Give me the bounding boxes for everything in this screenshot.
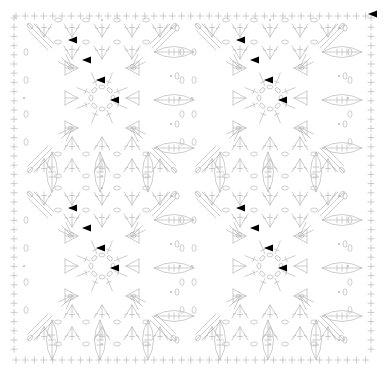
slip-stitch (269, 175, 271, 177)
slip-stitch (101, 19, 103, 21)
join-slip-stitch (170, 339, 172, 341)
join-slip-stitch (170, 75, 172, 77)
slip-stitch (101, 175, 103, 177)
slip-stitch (179, 265, 181, 267)
join-slip-stitch (338, 123, 340, 125)
join-slip-stitch (170, 291, 172, 293)
slip-stitch (269, 343, 271, 345)
crochet-chart: Crochet Square Motif Chart (0, 0, 385, 377)
join-slip-stitch (338, 339, 340, 341)
join-slip-stitch (170, 123, 172, 125)
chart-background (0, 0, 385, 377)
join-slip-stitch (338, 27, 340, 29)
slip-stitch (347, 97, 349, 99)
join-slip-stitch (170, 27, 172, 29)
join-slip-stitch (338, 243, 340, 245)
slip-stitch (23, 265, 25, 267)
slip-stitch (347, 265, 349, 267)
join-slip-stitch (338, 291, 340, 293)
join-slip-stitch (338, 75, 340, 77)
join-slip-stitch (170, 243, 172, 245)
slip-stitch (101, 343, 103, 345)
join-slip-stitch (338, 195, 340, 197)
chart-canvas (0, 0, 385, 377)
slip-stitch (179, 97, 181, 99)
slip-stitch (23, 97, 25, 99)
slip-stitch (269, 19, 271, 21)
join-slip-stitch (170, 195, 172, 197)
